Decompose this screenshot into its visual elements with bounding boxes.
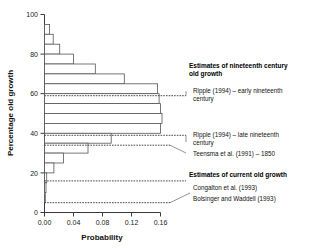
x-ticklabel-0: 0.00 (38, 219, 52, 226)
bar (45, 123, 161, 133)
y-ticklabel-20: 20 (30, 170, 38, 177)
bar (45, 153, 64, 163)
bar (45, 193, 46, 203)
annotation-congalton: Congalton et al. (1993) (193, 184, 257, 192)
bar (45, 74, 125, 84)
y-ticklabel-80: 80 (30, 51, 38, 58)
annotation-heading-nineteenth-line2: old growth (189, 70, 222, 78)
annotation-ripple-early-line1: Ripple (1994) – early nineteenth (193, 87, 283, 95)
annotation-ripple-early-line2: century (193, 95, 215, 103)
bar (45, 104, 161, 114)
leader-bolsinger (170, 193, 190, 203)
bar (45, 94, 160, 104)
y-axis-title: Percentage old growth (6, 70, 15, 156)
x-ticklabel-2: 0.08 (96, 219, 110, 226)
bar (45, 34, 54, 44)
x-ticklabel-3: 0.12 (125, 219, 139, 226)
annotation-heading-current: Estimates of current old growth (189, 171, 287, 179)
bar (45, 84, 158, 94)
chart-figure: 100 80 60 40 20 0 0.00 0.04 0.08 0.12 0.… (0, 0, 309, 248)
y-ticklabel-100: 100 (26, 11, 38, 18)
annotation-heading-nineteenth-line1: Estimates of nineteenth century (189, 62, 288, 70)
x-ticklabel-1: 0.04 (67, 219, 81, 226)
bar (45, 54, 74, 64)
annotation-ripple-late-line1: Ripple (1994) – late nineteenth (193, 131, 280, 139)
y-ticklabel-60: 60 (30, 90, 38, 97)
bar (45, 64, 96, 74)
annotation-bolsinger: Bolsinger and Waddell (1993) (193, 195, 276, 203)
x-axis-title: Probability (81, 233, 123, 242)
leader-teensma (170, 145, 186, 153)
annotation-ripple-late-line2: century (193, 139, 215, 147)
annotation-group: Estimates of nineteenth century old grow… (189, 62, 288, 203)
bar (45, 163, 54, 173)
chart-svg: 100 80 60 40 20 0 0.00 0.04 0.08 0.12 0.… (0, 0, 309, 248)
bar (45, 133, 112, 143)
x-ticklabel-4: 0.16 (154, 219, 168, 226)
annotation-teensma: Teensma et al. (1991) – 1850 (193, 150, 275, 158)
bar (45, 24, 50, 34)
y-ticklabel-0: 0 (34, 209, 38, 216)
bar (45, 183, 47, 193)
bar (45, 114, 163, 124)
histogram-bars (45, 24, 163, 202)
bar (45, 143, 89, 153)
bar (45, 44, 60, 54)
y-ticklabel-40: 40 (30, 130, 38, 137)
